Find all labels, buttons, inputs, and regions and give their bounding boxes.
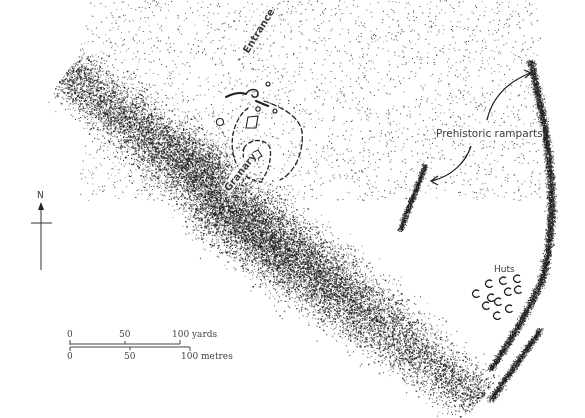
scale-metres-100: 100 metres bbox=[181, 351, 233, 361]
huts-label: Huts bbox=[494, 264, 515, 274]
hut-circle bbox=[513, 275, 520, 282]
hut-circle bbox=[514, 286, 521, 293]
hut-circle bbox=[472, 290, 479, 297]
posthole bbox=[256, 107, 260, 111]
hut-circle bbox=[499, 277, 506, 284]
scale-metres-50: 50 bbox=[124, 351, 135, 361]
site-map: Entrance Granary Prehistoric ramparts Hu… bbox=[0, 0, 585, 418]
pit-circle bbox=[217, 119, 224, 126]
hut-circle bbox=[485, 280, 492, 287]
scale-bar bbox=[70, 340, 190, 351]
scale-metres-0: 0 bbox=[67, 351, 73, 361]
building-foundation bbox=[246, 116, 258, 128]
hut-circle bbox=[504, 288, 511, 295]
scale-yards-50: 50 bbox=[119, 329, 130, 339]
scale-yards-0: 0 bbox=[67, 329, 73, 339]
hut-circle bbox=[487, 294, 494, 301]
hut-circles bbox=[472, 275, 521, 319]
scale-yards-100: 100 yards bbox=[172, 329, 217, 339]
hut-circle bbox=[482, 302, 489, 309]
posthole bbox=[273, 109, 277, 113]
ramparts-label: Prehistoric ramparts bbox=[436, 127, 543, 139]
hut-circle bbox=[494, 298, 501, 305]
posthole bbox=[266, 82, 270, 86]
hut-circle bbox=[505, 305, 512, 312]
north-label: N bbox=[37, 190, 44, 200]
hut-circle bbox=[493, 312, 500, 319]
north-arrow-icon bbox=[31, 202, 52, 270]
map-overlay bbox=[0, 0, 585, 418]
